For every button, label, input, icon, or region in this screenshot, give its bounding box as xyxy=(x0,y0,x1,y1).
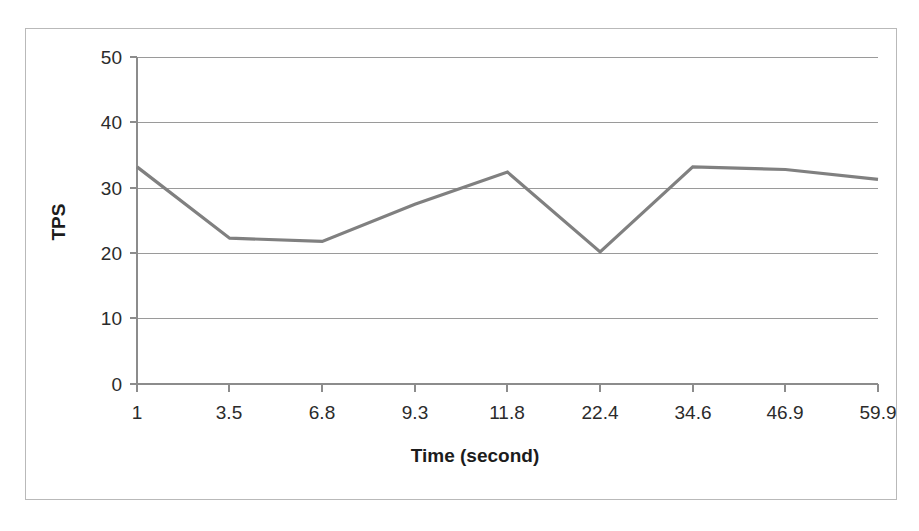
y-tick-label-0: 0 xyxy=(111,374,122,395)
y-tick-label-40: 40 xyxy=(101,112,122,133)
chart-figure: 50 40 30 20 10 0 1 3.5 6.8 9.3 11.8 22.4… xyxy=(0,0,919,531)
x-tick-label-7: 46.9 xyxy=(767,402,804,423)
x-tick-label-5: 22.4 xyxy=(582,402,619,423)
line-chart-plot: 50 40 30 20 10 0 1 3.5 6.8 9.3 11.8 22.4… xyxy=(0,0,919,531)
x-tick-label-0: 1 xyxy=(132,402,143,423)
x-tick-label-1: 3.5 xyxy=(216,402,242,423)
series-line-tps xyxy=(137,167,878,252)
y-tick-label-20: 20 xyxy=(101,243,122,264)
x-axis-tick-marks xyxy=(137,384,878,392)
x-tick-label-6: 34.6 xyxy=(675,402,712,423)
x-axis-tick-labels: 1 3.5 6.8 9.3 11.8 22.4 34.6 46.9 59.9 xyxy=(132,402,897,423)
y-axis-tick-marks xyxy=(130,57,137,384)
y-axis-tick-labels: 50 40 30 20 10 0 xyxy=(101,47,122,395)
y-tick-label-10: 10 xyxy=(101,308,122,329)
y-tick-label-30: 30 xyxy=(101,178,122,199)
x-tick-label-2: 6.8 xyxy=(309,402,335,423)
y-tick-label-50: 50 xyxy=(101,47,122,68)
x-axis-title: Time (second) xyxy=(411,445,539,466)
y-axis-title: TPS xyxy=(48,204,69,241)
x-tick-label-3: 9.3 xyxy=(402,402,428,423)
y-gridlines xyxy=(137,57,878,318)
x-tick-label-4: 11.8 xyxy=(489,402,525,423)
x-tick-label-8: 59.9 xyxy=(860,402,897,423)
